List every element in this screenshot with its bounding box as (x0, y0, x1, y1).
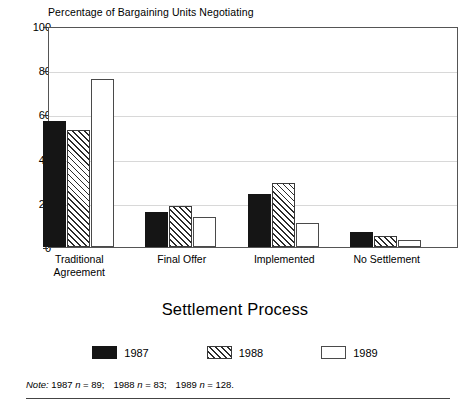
legend-label-1987: 1987 (124, 347, 148, 359)
chart-note: Note: 1987 n = 89;1988 n = 83;1989 n = 1… (26, 379, 234, 390)
x-axis-category-label: Traditional Agreement (28, 253, 131, 278)
note-n-value: = 128. (205, 379, 234, 390)
bar-1987-1 (43, 121, 66, 247)
bar-1988-2 (169, 206, 192, 247)
bar-1988-4 (374, 236, 397, 247)
chart-legend: 198719881989 (0, 346, 470, 359)
note-n-value: = 83; (143, 379, 167, 390)
legend-swatch-1988 (207, 346, 232, 359)
note-year: 1988 (113, 379, 137, 390)
legend-item-1988: 1988 (207, 346, 263, 359)
bar-group (248, 28, 319, 247)
legend-swatch-1989 (321, 346, 346, 359)
bar-1987-2 (145, 212, 168, 247)
bar-group (43, 28, 114, 247)
bar-1987-4 (350, 232, 373, 247)
bar-group (350, 28, 421, 247)
note-year: 1989 (176, 379, 200, 390)
legend-item-1989: 1989 (321, 346, 377, 359)
bar-1988-3 (272, 183, 295, 247)
plot-area (48, 27, 458, 248)
bar-1989-3 (296, 223, 319, 247)
x-axis-category-label: Final Offer (131, 253, 234, 266)
bar-1989-2 (193, 217, 216, 247)
bar-1987-3 (248, 194, 271, 247)
bottom-divider (26, 398, 450, 399)
legend-label-1988: 1988 (239, 347, 263, 359)
x-axis-category-label: Implemented (233, 253, 336, 266)
note-year: 1987 (51, 379, 75, 390)
x-axis-title: Settlement Process (0, 300, 470, 319)
legend-item-1987: 1987 (92, 346, 148, 359)
bar-group (145, 28, 216, 247)
bar-1989-4 (398, 240, 421, 247)
legend-swatch-1987 (92, 346, 117, 359)
chart-title: Percentage of Bargaining Units Negotiati… (48, 6, 254, 18)
note-label: Note: (26, 379, 51, 390)
legend-label-1989: 1989 (353, 347, 377, 359)
note-n-value: = 89; (80, 379, 104, 390)
bar-1988-1 (67, 130, 90, 247)
x-axis-category-label: No Settlement (336, 253, 439, 266)
y-axis-tick-mark (43, 248, 48, 249)
bar-1989-1 (91, 79, 114, 247)
